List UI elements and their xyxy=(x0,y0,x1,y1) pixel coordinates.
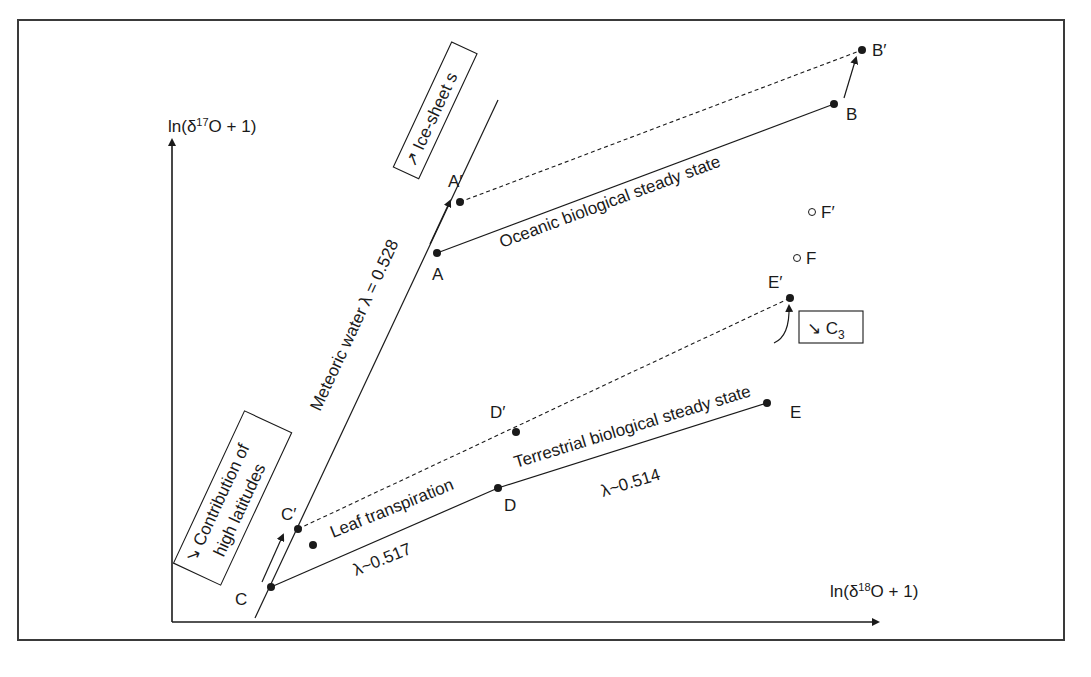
label-a-prime: A′ xyxy=(448,172,463,191)
point-a xyxy=(433,249,441,257)
point-e xyxy=(763,399,771,407)
point-e-prime xyxy=(786,294,794,302)
point-a-prime xyxy=(456,198,464,206)
label-f-prime: F′ xyxy=(821,203,835,222)
label-f: F xyxy=(806,249,816,268)
point-f-prime xyxy=(809,209,816,216)
oceanic-label: Oceanic biological steady state xyxy=(497,152,723,252)
label-b-prime: B′ xyxy=(872,41,887,60)
meteoric-water-label: Meteoric water λ = 0.528 xyxy=(306,237,402,414)
x-axis-label: ln(δ18O + 1) xyxy=(830,581,918,601)
ice-sheet-arrow xyxy=(430,201,450,244)
b-shift-arrow xyxy=(844,58,856,98)
label-b: B xyxy=(846,105,857,124)
svg-text:↘ C3: ↘ C3 xyxy=(807,319,845,342)
label-d-prime: D′ xyxy=(490,403,505,422)
ice-sheets-box: ↗ Ice-sheet s xyxy=(393,42,477,179)
point-c xyxy=(267,583,275,591)
label-c: C xyxy=(235,590,247,609)
high-latitudes-box: ↘ Contribution of high latitudes xyxy=(174,411,292,585)
oceanic-line xyxy=(437,104,834,253)
label-a: A xyxy=(432,265,444,284)
high-latitude-arrow xyxy=(262,535,283,582)
label-d: D xyxy=(504,496,516,515)
point-c-prime xyxy=(294,525,302,533)
terrestrial-lambda-label: λ~0.514 xyxy=(599,465,663,501)
c3-curved-arrow xyxy=(774,306,789,343)
label-e-prime: E′ xyxy=(768,273,783,292)
leaf-lambda-label: λ~0.517 xyxy=(350,539,414,579)
isotope-diagram: ln(δ17O + 1) ln(δ18O + 1) Meteoric water… xyxy=(0,0,1091,677)
terrestrial-shifted-line xyxy=(298,298,790,529)
c3-box: ↘ C3 xyxy=(799,311,863,343)
point-b xyxy=(830,100,838,108)
label-c-prime: C′ xyxy=(281,505,296,524)
point-f xyxy=(794,255,801,262)
y-axis-label: ln(δ17O + 1) xyxy=(168,116,256,136)
label-e: E xyxy=(790,403,801,422)
point-b-prime xyxy=(858,46,866,54)
point-d xyxy=(494,484,502,492)
point-d-prime xyxy=(512,428,520,436)
point-leaf xyxy=(309,541,317,549)
leaf-transpiration-label: Leaf transpiration xyxy=(327,475,456,542)
terrestrial-label: Terrestrial biological steady state xyxy=(512,382,753,472)
